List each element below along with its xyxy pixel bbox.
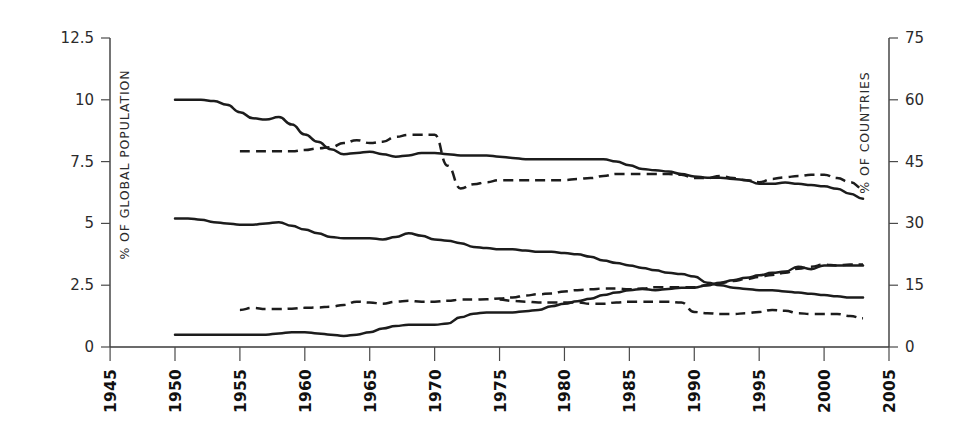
line-chart: 02.557.51012.5% OF GLOBAL POPULATION0153… xyxy=(0,0,970,434)
y-axis-left-tick-label: 5 xyxy=(84,214,94,232)
x-axis-tick-label: 1965 xyxy=(362,369,380,413)
y-axis-right-tick-label: 75 xyxy=(905,29,924,47)
series-line-upper-solid-population xyxy=(175,100,863,199)
x-axis-tick-label: 1970 xyxy=(427,369,445,413)
y-axis-right-tick-label: 30 xyxy=(905,214,924,232)
x-axis-tick-label: 1955 xyxy=(232,369,250,413)
y-axis-right-title: % OF COUNTRIES xyxy=(857,71,872,193)
y-axis-right-tick-label: 60 xyxy=(905,91,924,109)
y-axis-left-tick-label: 7.5 xyxy=(70,153,94,171)
series-line-middle-solid-population xyxy=(175,218,863,297)
x-axis-tick-label: 1990 xyxy=(686,369,704,413)
y-axis-right-tick-label: 15 xyxy=(905,276,924,294)
y-axis-left-tick-label: 0 xyxy=(84,338,94,356)
x-axis-tick-label: 1975 xyxy=(492,369,510,413)
y-axis-left-tick-label: 2.5 xyxy=(70,276,94,294)
chart-figure: 02.557.51012.5% OF GLOBAL POPULATION0153… xyxy=(0,0,970,434)
series-line-upper-dashed-countries xyxy=(240,135,863,189)
x-axis-tick-label: 2000 xyxy=(816,369,834,413)
x-axis-tick-label: 1980 xyxy=(556,369,574,413)
y-axis-right-tick-label: 45 xyxy=(905,153,924,171)
y-axis-left-tick-label: 10 xyxy=(75,91,94,109)
series-line-lower-dashed-countries xyxy=(500,300,863,319)
x-axis-tick-label: 1995 xyxy=(751,369,769,413)
y-axis-left-title: % OF GLOBAL POPULATION xyxy=(117,69,132,259)
x-axis-tick-label: 1945 xyxy=(102,369,120,413)
x-axis-tick-label: 2005 xyxy=(881,369,899,413)
x-axis-tick-label: 1950 xyxy=(167,369,185,413)
x-axis-tick-label: 1985 xyxy=(621,369,639,413)
y-axis-right-tick-label: 0 xyxy=(905,338,915,356)
y-axis-left-tick-label: 12.5 xyxy=(61,29,94,47)
x-axis-tick-label: 1960 xyxy=(297,369,315,413)
